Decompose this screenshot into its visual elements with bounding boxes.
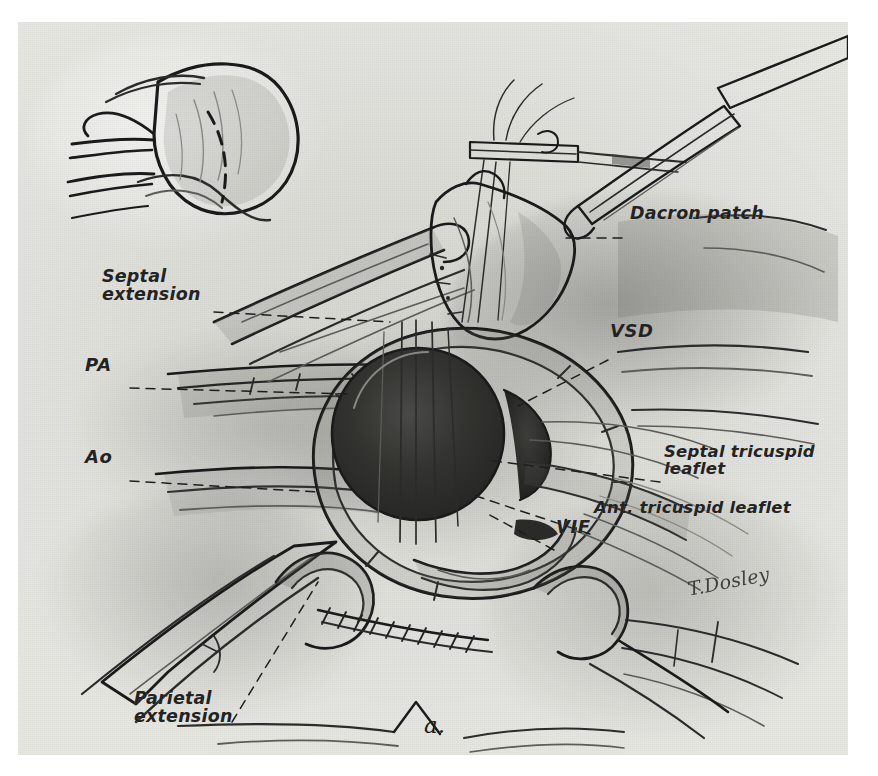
label-vif: VIF xyxy=(556,518,591,536)
inset-heart-exterior xyxy=(68,64,298,220)
figure-label: a. xyxy=(424,712,445,738)
label-ant-tricuspid-leaflet: Ant. tricuspid leaflet xyxy=(594,500,791,517)
surgical-illustration-plate xyxy=(18,22,848,755)
label-dacron-patch: Dacron patch xyxy=(630,205,764,223)
label-vsd: VSD xyxy=(610,322,654,340)
label-parietal-extension: Parietal extension xyxy=(134,690,233,726)
illustration-linework xyxy=(18,22,848,755)
scanned-page: Septal extension Dacron patch PA Ao VSD … xyxy=(0,0,878,776)
leader-parietal-extension xyxy=(232,582,318,722)
label-septal-extension: Septal extension xyxy=(102,268,201,304)
label-ao: Ao xyxy=(85,448,113,466)
label-septal-tricuspid-leaflet: Septal tricuspid leaflet xyxy=(664,444,815,478)
label-pa: PA xyxy=(85,356,112,374)
